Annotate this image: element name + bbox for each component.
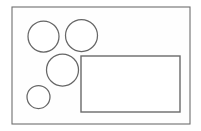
diagram-canvas: [0, 0, 201, 131]
circle-middle[interactable]: [47, 54, 79, 86]
inner-rectangle[interactable]: [81, 56, 180, 112]
circle-top-left[interactable]: [28, 21, 59, 52]
circle-bottom-left[interactable]: [27, 86, 50, 109]
circle-top-right[interactable]: [66, 20, 98, 52]
shapes-diagram: [0, 0, 201, 131]
